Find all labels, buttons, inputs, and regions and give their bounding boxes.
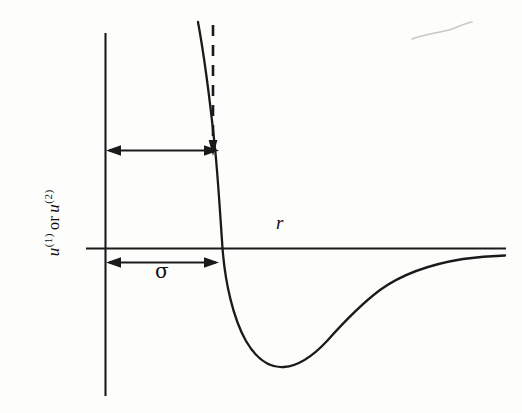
y-label-symbol-1: u	[44, 247, 63, 256]
plot-canvas	[0, 0, 522, 413]
y-axis-label: u(1)oru(2)	[42, 148, 64, 298]
x-axis-label: r	[276, 212, 283, 234]
y-label-superscript-1: (1)	[42, 233, 54, 247]
potential-energy-curve	[198, 22, 505, 367]
scan-artifact-squiggle	[412, 22, 472, 39]
sigma-label: σ	[155, 259, 169, 283]
y-label-superscript-2: (2)	[42, 189, 54, 203]
potential-energy-figure: r σ u(1)oru(2)	[0, 0, 522, 413]
collision-diameter-arrow-upper	[106, 145, 219, 156]
y-label-conjunction: or	[45, 213, 62, 233]
y-label-symbol-2: u	[44, 204, 63, 213]
